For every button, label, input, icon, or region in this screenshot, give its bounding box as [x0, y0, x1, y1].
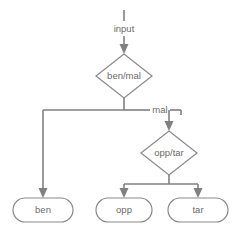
decision-label-opp-tar: opp/tar [154, 147, 184, 158]
edge-label-mal: mal [152, 104, 167, 115]
edge-opp-tar-split [120, 175, 203, 198]
terminal-label-tar: tar [192, 204, 203, 215]
terminal-node-ben[interactable]: ben [13, 198, 73, 222]
arrowhead-into-opp [120, 188, 129, 198]
terminal-label-ben: ben [35, 204, 51, 215]
flowchart-svg: input ben/mal mal [0, 0, 247, 235]
edge-label-input: input [114, 23, 135, 34]
terminal-node-tar[interactable]: tar [168, 198, 228, 222]
decision-label-ben-mal: ben/mal [107, 70, 141, 81]
arrowhead-into-opp-tar [165, 121, 174, 131]
decision-node-opp-tar[interactable]: opp/tar [141, 131, 197, 175]
flowchart-canvas: input ben/mal mal [0, 0, 247, 235]
terminal-node-opp[interactable]: opp [96, 198, 152, 222]
arrowhead-into-ben-mal [120, 44, 129, 54]
arrowhead-into-ben [39, 188, 48, 198]
arrowhead-into-tar [194, 188, 203, 198]
terminal-label-opp: opp [116, 204, 132, 215]
decision-node-ben-mal[interactable]: ben/mal [96, 54, 152, 98]
edge-ben-mal-to-ben [39, 110, 48, 198]
